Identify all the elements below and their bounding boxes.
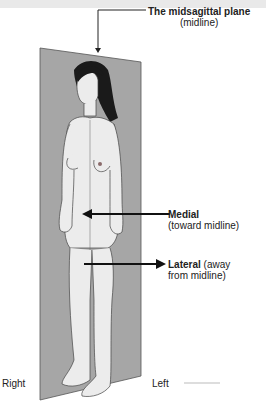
medial-title: Medial xyxy=(168,209,199,220)
lateral-sub-1: (away xyxy=(204,259,231,270)
lateral-arrowhead xyxy=(156,259,166,269)
title-arrowhead xyxy=(95,48,101,53)
midsagittal-label: The midsagittal plane (midline) xyxy=(148,6,250,28)
lateral-sub-2: from midline) xyxy=(168,270,230,281)
midsagittal-title: The midsagittal plane xyxy=(148,6,250,17)
left-side-label: Left xyxy=(152,378,169,389)
medial-label: Medial (toward midline) xyxy=(168,209,239,231)
title-pointer xyxy=(98,10,146,50)
right-side-label: Right xyxy=(2,378,25,389)
lateral-label: Lateral (away from midline) xyxy=(168,259,230,281)
medial-sub: (toward midline) xyxy=(168,220,239,231)
lateral-title: Lateral xyxy=(168,259,201,270)
midsagittal-sub: (midline) xyxy=(148,17,250,28)
